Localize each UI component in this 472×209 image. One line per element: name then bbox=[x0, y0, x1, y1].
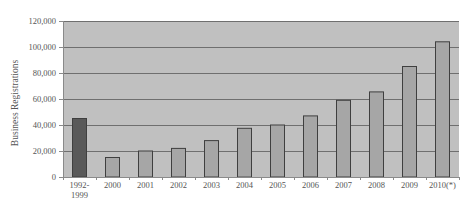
x-tick-label: 2009 bbox=[401, 180, 418, 190]
x-tick-label: 2003 bbox=[203, 180, 220, 190]
x-tick-label: 2005 bbox=[269, 180, 286, 190]
x-tick-label: 2001 bbox=[137, 180, 154, 190]
y-tick-label: 60,000 bbox=[33, 94, 56, 104]
x-tick-label: 2002 bbox=[170, 180, 187, 190]
y-tick-label: 120,000 bbox=[28, 16, 56, 26]
bar-2005 bbox=[271, 125, 285, 177]
y-axis-title: Business Registrations bbox=[10, 60, 20, 147]
x-tick-label: 2000 bbox=[104, 180, 121, 190]
bar-chart: 020,00040,00060,00080,000100,000120,000 … bbox=[0, 0, 472, 209]
x-tick-label: 2010(*) bbox=[429, 180, 456, 190]
x-tick-label: 2008 bbox=[368, 180, 385, 190]
y-tick-label: 20,000 bbox=[33, 146, 56, 156]
y-tick-label: 80,000 bbox=[33, 68, 56, 78]
bar-2002 bbox=[172, 148, 186, 177]
y-tick-label: 0 bbox=[52, 172, 56, 182]
bar-1992-1999 bbox=[73, 119, 87, 178]
bar-2010(*) bbox=[436, 42, 450, 177]
x-axis-tick-labels: 1992-19992000200120022003200420052006200… bbox=[70, 180, 457, 200]
bar-2003 bbox=[205, 141, 219, 177]
bar-2000 bbox=[106, 158, 120, 178]
bar-2001 bbox=[139, 151, 153, 177]
bar-2006 bbox=[304, 116, 318, 177]
x-tick-label: 2006 bbox=[302, 180, 319, 190]
x-tick-label: 2004 bbox=[236, 180, 254, 190]
y-tick-label: 100,000 bbox=[28, 42, 56, 52]
x-tick-label: 1992- bbox=[70, 180, 90, 190]
y-tick-label: 40,000 bbox=[33, 120, 56, 130]
bar-2008 bbox=[370, 92, 384, 177]
bar-2004 bbox=[238, 128, 252, 177]
x-tick-label: 1999 bbox=[71, 190, 88, 200]
y-axis-tick-labels: 020,00040,00060,00080,000100,000120,000 bbox=[28, 16, 56, 182]
bar-2007 bbox=[337, 100, 351, 177]
bar-2009 bbox=[403, 67, 417, 178]
x-tick-label: 2007 bbox=[335, 180, 352, 190]
